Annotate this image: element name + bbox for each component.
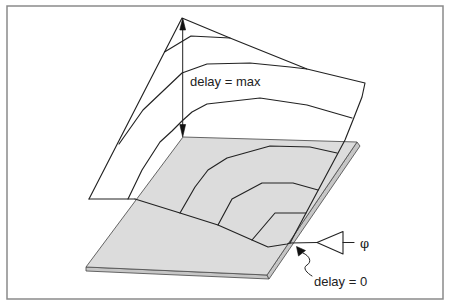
delay-zero-label: delay = 0 (314, 274, 367, 289)
delay-surface-diagram: φ delay = max delay = 0 (0, 0, 449, 303)
phase-symbol-label: φ (360, 236, 369, 251)
driver-output-wire (290, 243, 317, 244)
delay-max-label: delay = max (190, 74, 261, 89)
